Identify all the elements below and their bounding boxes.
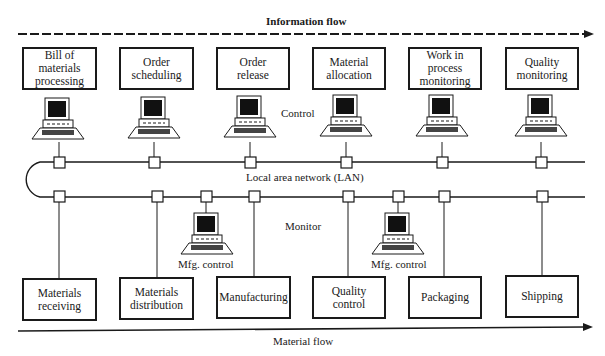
box-order-release: Order release [216,47,290,90]
box-materials-receiving: Materials receiving [22,278,97,321]
material-flow-arrowhead [583,323,593,331]
box-manufacturing: Manufacturing [216,276,291,319]
material-flow-label: Material flow [273,335,333,347]
mfg-control-computer-icon [181,213,233,254]
control-computer-icon [224,96,276,137]
control-computer-icon [32,98,84,139]
control-label: Control [281,107,315,119]
monitor-label: Monitor [285,220,321,232]
mfg-control-label: Mfg. control [371,258,427,270]
control-computer-icon [128,97,180,138]
box-order-scheduling: Order scheduling [119,47,194,90]
box-quality-control: Quality control [312,276,386,319]
box-quality-monitoring: Quality monitoring [505,47,579,90]
control-computer-icon [320,95,372,136]
box-materials-distribution: Materials distribution [119,277,194,320]
box-work-in-process: Work in process monitoring [408,47,482,90]
lan-label: Local area network (LAN) [246,171,364,183]
material-flow-arrow-line [18,327,585,331]
top-connectors [59,142,541,162]
information-flow-arrowhead [584,30,594,38]
bottom-connectors [59,197,542,278]
mfg-control-computer-icon [372,213,424,254]
control-computer-icon [416,95,468,136]
box-material-allocation: Material allocation [312,47,386,90]
box-shipping: Shipping [505,275,579,318]
mfg-control-label: Mfg. control [178,258,234,270]
information-flow-label: Information flow [266,15,346,27]
control-computer-icon [515,95,567,136]
box-bill-of-materials: Bill of materials processing [22,47,97,90]
box-packaging: Packaging [408,276,482,319]
